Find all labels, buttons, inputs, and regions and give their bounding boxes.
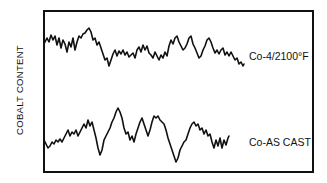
cobalt-content-chart: Co-4/2100°F Co-AS CAST COBALT CONTENT	[0, 0, 327, 183]
trace-co-4-2100f	[44, 28, 244, 66]
series-label-co-4-2100f: Co-4/2100°F	[249, 50, 309, 62]
y-axis-label: COBALT CONTENT	[14, 45, 25, 135]
series-label-co-as-cast: Co-AS CAST	[249, 136, 311, 148]
trace-co-as-cast	[44, 108, 229, 162]
